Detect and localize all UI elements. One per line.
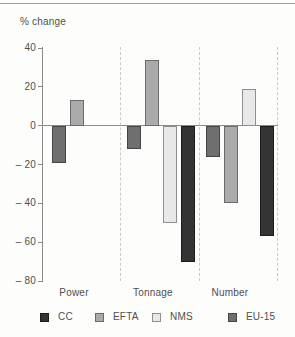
- legend-swatch-nms: [152, 313, 161, 322]
- legend-swatch-efta: [95, 313, 104, 322]
- legend-label-cc: CC: [58, 311, 73, 323]
- bar-nms-number: [242, 89, 256, 126]
- legend-label-eu-15: EU-15: [246, 311, 275, 323]
- category-label-power: Power: [34, 287, 114, 299]
- category-label-tonnage: Tonnage: [113, 287, 193, 299]
- bar-eu-15-power: [52, 126, 66, 163]
- bar-nms-tonnage: [163, 126, 177, 223]
- y-axis-tick: [38, 86, 42, 87]
- y-axis-tick-label: 40: [0, 42, 36, 54]
- legend-label-efta: EFTA: [113, 311, 139, 323]
- bar-eu-15-number: [206, 126, 220, 157]
- y-axis-tick-label: 20: [0, 81, 36, 93]
- bar-efta-number: [224, 126, 238, 204]
- y-axis-tick-label: 0: [0, 120, 36, 132]
- y-axis-tick-label: – 40: [0, 197, 36, 209]
- y-axis-tick-label: – 20: [0, 159, 36, 171]
- bar-efta-tonnage: [145, 60, 159, 126]
- y-axis-tick: [38, 203, 42, 204]
- y-axis-tick: [38, 242, 42, 243]
- bar-efta-power: [70, 100, 84, 125]
- legend-label-nms: NMS: [170, 311, 193, 323]
- y-axis-tick-label: – 60: [0, 236, 36, 248]
- chart-legend: CCEFTANMSEU-15: [0, 310, 295, 332]
- y-axis-line: [42, 47, 43, 282]
- bar-chart-plot: 40200– 20– 40– 60– 80PowerTonnageNumber: [0, 0, 295, 337]
- bar-cc-number: [260, 126, 274, 237]
- category-label-number: Number: [190, 287, 270, 299]
- group-separator-line: [277, 47, 278, 281]
- group-separator-line: [199, 47, 200, 281]
- bar-eu-15-tonnage: [127, 126, 141, 149]
- bar-cc-tonnage: [181, 126, 195, 262]
- y-axis-tick: [38, 281, 42, 282]
- y-axis-tick: [38, 164, 42, 165]
- y-axis-tick-label: – 80: [0, 275, 36, 287]
- y-axis-tick: [38, 48, 42, 49]
- fleet-change-chart-page: % change 40200– 20– 40– 60– 80PowerTonna…: [0, 0, 295, 337]
- legend-swatch-cc: [40, 313, 49, 322]
- legend-swatch-eu-15: [228, 313, 237, 322]
- group-separator-line: [120, 47, 121, 281]
